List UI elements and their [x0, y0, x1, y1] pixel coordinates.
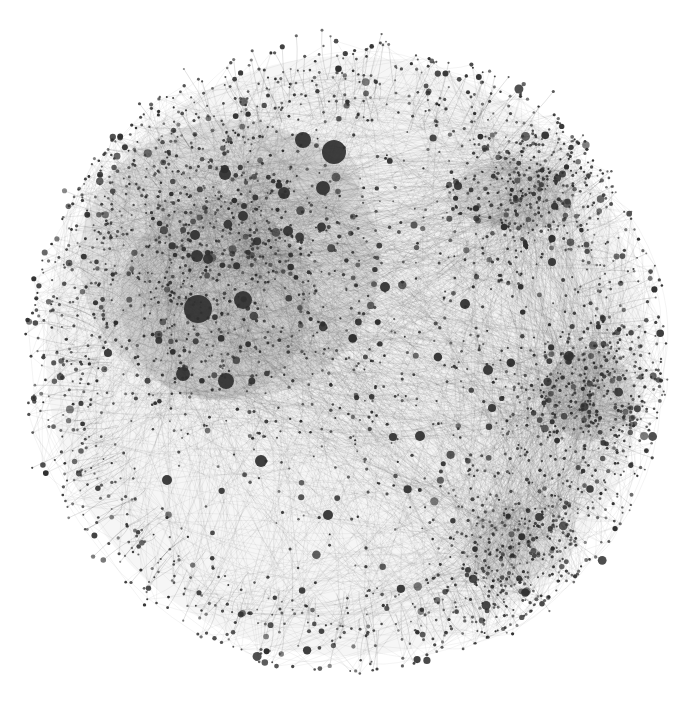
- graph-node: [358, 300, 360, 302]
- graph-node: [280, 102, 283, 105]
- graph-node: [148, 581, 150, 583]
- hub-node: [389, 433, 397, 441]
- graph-node: [584, 461, 586, 463]
- graph-node: [83, 183, 85, 185]
- graph-node: [597, 423, 599, 425]
- graph-node: [31, 431, 34, 434]
- graph-node: [463, 619, 466, 622]
- graph-node: [242, 472, 247, 477]
- graph-node: [597, 218, 599, 220]
- graph-node: [268, 89, 270, 91]
- graph-node: [161, 208, 164, 211]
- graph-node: [257, 361, 260, 364]
- graph-node: [168, 339, 173, 344]
- graph-node: [566, 232, 568, 234]
- graph-node: [188, 196, 191, 199]
- graph-node: [508, 546, 512, 550]
- graph-node: [549, 434, 551, 436]
- graph-node: [218, 388, 221, 391]
- graph-node: [585, 249, 590, 254]
- graph-node: [201, 80, 203, 82]
- graph-node: [336, 116, 341, 121]
- graph-node: [432, 423, 434, 425]
- graph-node: [220, 263, 226, 269]
- graph-node: [263, 288, 266, 291]
- graph-node: [579, 338, 582, 341]
- graph-node: [440, 646, 443, 649]
- graph-node: [111, 299, 113, 301]
- graph-node: [81, 196, 83, 198]
- graph-node: [291, 599, 293, 601]
- graph-node: [515, 624, 518, 627]
- graph-node: [284, 240, 286, 242]
- graph-node: [110, 221, 113, 224]
- graph-node: [501, 224, 507, 230]
- graph-node: [188, 395, 191, 398]
- graph-node: [250, 58, 253, 61]
- graph-node: [157, 110, 160, 113]
- graph-node: [217, 240, 220, 243]
- graph-node: [211, 372, 217, 378]
- graph-node: [349, 436, 352, 439]
- graph-node: [614, 388, 623, 397]
- graph-node: [473, 175, 476, 178]
- graph-node: [564, 164, 569, 169]
- graph-node: [541, 425, 549, 433]
- graph-node: [579, 190, 582, 193]
- graph-node: [196, 633, 199, 636]
- graph-node: [290, 68, 292, 70]
- graph-node: [239, 350, 241, 352]
- graph-node: [257, 83, 259, 85]
- graph-node: [424, 506, 426, 508]
- graph-node: [108, 247, 111, 250]
- graph-node: [47, 425, 50, 428]
- graph-node: [537, 576, 539, 578]
- graph-node: [124, 392, 127, 395]
- graph-node: [531, 548, 537, 554]
- graph-node: [536, 163, 539, 166]
- graph-node: [509, 457, 512, 460]
- graph-node: [42, 319, 45, 322]
- graph-node: [480, 454, 483, 457]
- graph-node: [402, 261, 405, 264]
- graph-node: [557, 117, 560, 120]
- graph-node: [60, 314, 63, 317]
- graph-node: [60, 375, 65, 380]
- graph-node: [485, 498, 487, 500]
- graph-node: [94, 196, 97, 199]
- graph-node: [229, 251, 235, 257]
- graph-node: [169, 258, 172, 261]
- graph-node: [518, 533, 525, 540]
- graph-node: [367, 415, 370, 418]
- graph-node: [36, 350, 38, 352]
- graph-node: [654, 321, 657, 324]
- graph-node: [560, 200, 563, 203]
- graph-node: [513, 529, 516, 532]
- graph-node: [485, 565, 487, 567]
- graph-node: [590, 322, 593, 325]
- graph-node: [168, 266, 170, 268]
- graph-node: [283, 622, 286, 625]
- graph-node: [106, 222, 109, 225]
- graph-node: [604, 197, 607, 200]
- graph-node: [51, 360, 56, 365]
- graph-node: [159, 231, 161, 233]
- graph-node: [126, 271, 131, 276]
- graph-node: [177, 199, 180, 202]
- graph-node: [289, 224, 292, 227]
- graph-node: [252, 210, 254, 212]
- graph-node: [34, 304, 36, 306]
- graph-node: [267, 331, 269, 333]
- graph-node: [569, 539, 572, 542]
- graph-node: [84, 285, 87, 288]
- graph-node: [289, 418, 291, 420]
- graph-node: [282, 71, 284, 73]
- graph-node: [470, 497, 474, 501]
- graph-node: [90, 282, 93, 285]
- graph-node: [164, 200, 167, 203]
- graph-node: [619, 522, 622, 525]
- graph-node: [589, 301, 593, 305]
- graph-node: [279, 651, 284, 656]
- graph-node: [424, 477, 426, 479]
- graph-node: [350, 307, 353, 310]
